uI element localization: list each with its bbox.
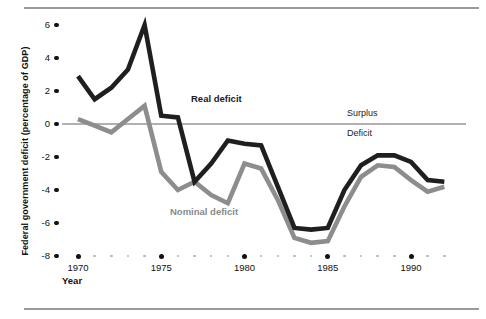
deficit-zone-label: Deficit — [347, 128, 372, 138]
x-axis-title: Year — [62, 275, 82, 286]
surplus-zone-label: Surplus — [347, 108, 378, 118]
series-line-real-deficit — [78, 25, 444, 230]
plot-area — [0, 0, 486, 319]
series-line-nominal-deficit — [78, 106, 444, 243]
series-label-real-deficit: Real deficit — [191, 93, 242, 104]
series-label-nominal-deficit: Nominal deficit — [170, 206, 238, 217]
chart-figure: Federal government deficit (percentage o… — [0, 0, 486, 319]
